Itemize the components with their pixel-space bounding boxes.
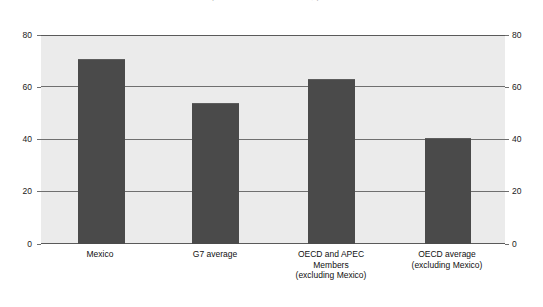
tick-right-80 <box>505 35 509 36</box>
tick-left-0 <box>37 244 41 245</box>
tick-right-60 <box>505 87 509 88</box>
tick-left-40 <box>37 139 41 140</box>
y-axis-label-right-0: 0 <box>512 240 536 249</box>
bar-g7-average <box>192 103 239 244</box>
x-axis-label-g7-average: G7 average <box>157 249 273 260</box>
bar-oecd-average <box>425 138 471 244</box>
y-axis-label-right-40: 40 <box>512 135 536 144</box>
gridline-80 <box>41 35 505 36</box>
y-axis-label-right-20: 20 <box>512 187 536 196</box>
x-axis-label-mexico: Mexico <box>42 249 158 260</box>
y-axis-label-right-80: 80 <box>512 31 536 40</box>
y-axis-label-left-0: 0 <box>8 240 32 249</box>
x-axis-label-oecd-apec-members: OECD and APEC Members (excluding Mexico) <box>273 249 389 281</box>
x-axis-label-oecd-average: OECD average (excluding Mexico) <box>389 249 505 270</box>
tick-left-80 <box>37 35 41 36</box>
bar-oecd-apec-members <box>308 79 355 244</box>
plot-area <box>41 35 505 244</box>
tick-left-60 <box>37 87 41 88</box>
tick-right-0 <box>505 244 509 245</box>
bar-chart: 80 60 40 20 0 80 60 40 20 0 Mexico G7 av… <box>0 0 543 307</box>
y-axis-label-left-80: 80 <box>8 31 32 40</box>
tick-right-20 <box>505 191 509 192</box>
y-axis-label-left-40: 40 <box>8 135 32 144</box>
y-axis-label-left-60: 60 <box>8 83 32 92</box>
tick-right-40 <box>505 139 509 140</box>
y-axis-label-left-20: 20 <box>8 187 32 196</box>
bar-mexico <box>78 59 125 244</box>
tick-left-20 <box>37 191 41 192</box>
y-axis-label-right-60: 60 <box>512 83 536 92</box>
